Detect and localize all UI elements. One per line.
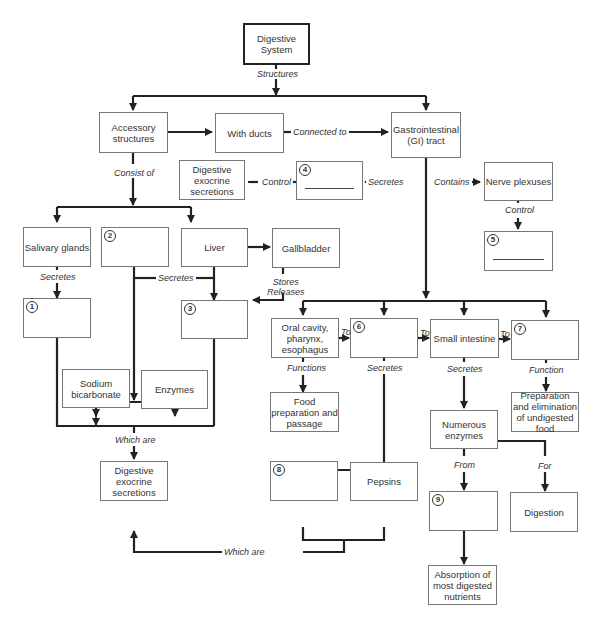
edge-label-connected-to: Connected to — [291, 127, 349, 137]
node-blank-6[interactable]: 6 — [350, 318, 418, 358]
node-label: Salivary glands — [25, 242, 89, 253]
edge-label-stores-releases: Stores Releases — [265, 277, 307, 297]
node-small-intestine: Small intestine — [430, 319, 499, 358]
number-badge: 7 — [514, 323, 526, 335]
edge-label-consist-of: Consist of — [112, 168, 156, 178]
node-preparation-elimination: Preparation and elimination of undigeste… — [511, 392, 579, 432]
number-badge: 1 — [26, 301, 38, 313]
edge-label-to-1: To — [339, 327, 353, 337]
edge-label-which-are-left: Which are — [113, 435, 158, 445]
node-digestive-exocrine-top: Digestive exocrine secretions — [179, 160, 245, 200]
node-gi-tract: Gastrointestinal (GI) tract — [391, 112, 461, 158]
node-pepsins: Pepsins — [350, 462, 418, 501]
node-label: Gastrointestinal (GI) tract — [392, 124, 460, 146]
node-blank-9[interactable]: 9 — [429, 491, 498, 531]
node-label: Digestion — [524, 507, 564, 518]
node-blank-1[interactable]: 1 — [23, 298, 91, 338]
node-oral-cavity: Oral cavity, pharynx, esophagus — [271, 318, 339, 358]
node-blank-5[interactable]: 5 — [484, 231, 553, 271]
node-label: With ducts — [227, 128, 271, 139]
node-label: Digestive exocrine secretions — [180, 164, 244, 197]
answer-line — [305, 188, 354, 189]
edge-label-secretes-stomach: Secretes — [365, 363, 405, 373]
edge-label-functions: Functions — [285, 363, 328, 373]
edge-label-secretes-salivary: Secretes — [38, 272, 78, 282]
number-badge: 5 — [487, 234, 499, 246]
node-sodium-bicarbonate: Sodium bicarbonate — [62, 369, 130, 408]
node-gallbladder: Gallbladder — [272, 228, 340, 268]
node-label: Oral cavity, pharynx, esophagus — [272, 322, 338, 355]
node-label: Pepsins — [367, 476, 401, 487]
node-salivary-glands: Salivary glands — [23, 227, 91, 267]
node-label: Digestive System — [245, 33, 308, 55]
node-digestive-exocrine-bottom: Digestive exocrine secretions — [100, 461, 168, 501]
node-food-preparation: Food preparation and passage — [270, 392, 339, 432]
node-liver: Liver — [181, 228, 248, 267]
node-absorption: Absorption of most digested nutrients — [428, 565, 497, 605]
edge-label-to-3: To — [498, 329, 512, 339]
node-label: Sodium bicarbonate — [63, 378, 129, 400]
edge-label-control-left: Control — [260, 177, 293, 187]
edge-label-function: Function — [527, 365, 566, 375]
edge-label-structures: Structures — [255, 69, 300, 79]
node-accessory-structures: Accessory structures — [99, 112, 168, 153]
number-badge: 3 — [184, 303, 196, 315]
node-label: Enzymes — [155, 384, 194, 395]
node-label: Digestive exocrine secretions — [101, 465, 167, 498]
node-enzymes: Enzymes — [141, 370, 208, 409]
node-digestive-system: Digestive System — [243, 23, 310, 65]
node-label: Small intestine — [434, 333, 496, 344]
node-nerve-plexuses: Nerve plexuses — [484, 162, 553, 201]
node-label: Absorption of most digested nutrients — [429, 569, 496, 602]
node-numerous-enzymes: Numerous enzymes — [430, 410, 498, 449]
edge-label-secretes-mid: Secretes — [156, 273, 196, 283]
edge-label-secretes-si: Secretes — [445, 364, 485, 374]
number-badge: 6 — [353, 321, 365, 333]
node-blank-2[interactable]: 2 — [101, 227, 169, 267]
node-blank-7[interactable]: 7 — [511, 320, 579, 360]
edge-label-control-nerve: Control — [503, 205, 536, 215]
node-blank-3[interactable]: 3 — [181, 300, 248, 339]
node-label: Gallbladder — [282, 243, 331, 254]
number-badge: 9 — [432, 494, 444, 506]
node-label: Nerve plexuses — [486, 176, 551, 187]
node-label: Food preparation and passage — [271, 396, 338, 429]
edge-label-which-are-bottom: Which are — [222, 547, 267, 557]
edge-label-for: For — [536, 461, 554, 471]
node-label: Numerous enzymes — [431, 419, 497, 441]
node-blank-4[interactable]: 4 — [296, 161, 363, 200]
number-badge: 4 — [299, 164, 311, 176]
answer-line — [493, 259, 544, 260]
node-with-ducts: With ducts — [215, 113, 284, 153]
node-label: Accessory structures — [100, 122, 167, 144]
number-badge: 2 — [104, 230, 116, 242]
node-label: Liver — [204, 242, 225, 253]
node-digestion: Digestion — [510, 492, 578, 532]
number-badge: 8 — [273, 464, 285, 476]
edge-label-to-2: To — [418, 328, 432, 338]
node-label: Preparation and elimination of undigeste… — [512, 390, 578, 434]
edge-label-contains: Contains — [432, 177, 472, 187]
node-blank-8[interactable]: 8 — [270, 461, 338, 501]
edge-label-secretes-gi: Secretes — [366, 177, 406, 187]
edge-label-from: From — [452, 460, 477, 470]
